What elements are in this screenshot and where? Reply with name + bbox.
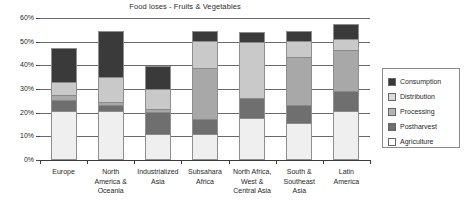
bar-latin-america[interactable] — [333, 24, 359, 160]
x-axis-tick — [276, 160, 277, 164]
bar-north-america-oceania[interactable] — [98, 31, 124, 160]
bar-segment-distribution[interactable] — [99, 77, 123, 102]
bar-segment-consumption[interactable] — [146, 67, 170, 88]
legend-swatch-consumption-icon — [388, 78, 396, 86]
bar-europe[interactable] — [51, 48, 77, 160]
legend-item-postharvest[interactable]: Postharvest — [388, 119, 459, 134]
x-axis-tick — [134, 160, 135, 164]
bar-segment-postharvest[interactable] — [52, 100, 76, 110]
bar-segment-distribution[interactable] — [240, 42, 264, 97]
x-axis-tick — [181, 160, 182, 164]
legend-label: Processing — [400, 108, 435, 115]
y-axis-tick-label: 10% — [2, 132, 34, 139]
legend-label: Distribution — [400, 93, 435, 100]
legend-swatch-agriculture-icon — [388, 138, 396, 146]
legend-item-processing[interactable]: Processing — [388, 104, 459, 119]
bar-segment-distribution[interactable] — [334, 39, 358, 49]
bar-segment-processing[interactable] — [193, 68, 217, 119]
bar-segment-consumption[interactable] — [334, 25, 358, 39]
bar-segment-agriculture[interactable] — [99, 111, 123, 159]
x-axis-tick — [323, 160, 324, 164]
bar-segment-postharvest[interactable] — [334, 91, 358, 111]
bar-segment-consumption[interactable] — [193, 32, 217, 41]
bar-segment-distribution[interactable] — [146, 89, 170, 109]
y-axis-tick-label: 50% — [2, 38, 34, 45]
bar-segment-consumption[interactable] — [240, 33, 264, 42]
bar-segment-distribution[interactable] — [193, 41, 217, 68]
bar-segment-agriculture[interactable] — [240, 118, 264, 159]
y-axis-tick-label: 30% — [2, 85, 34, 92]
legend-swatch-processing-icon — [388, 108, 396, 116]
x-axis-line — [40, 160, 370, 161]
legend-swatch-postharvest-icon — [388, 123, 396, 131]
bar-segment-postharvest[interactable] — [193, 119, 217, 134]
bar-segment-distribution[interactable] — [287, 41, 311, 56]
bar-south-southeast-asia[interactable] — [286, 31, 312, 160]
legend-label: Consumption — [400, 78, 441, 85]
bar-segment-distribution[interactable] — [52, 82, 76, 95]
legend-item-agriculture[interactable]: Agriculture — [388, 134, 459, 149]
bar-subsahara-africa[interactable] — [192, 31, 218, 160]
x-axis-tick — [229, 160, 230, 164]
y-axis-tick-label: 60% — [2, 14, 34, 21]
chart-title: Food loses - Fruits & Vegetables — [0, 2, 370, 11]
y-axis-tick-label: 0% — [2, 156, 34, 163]
chart-legend: ConsumptionDistributionProcessingPosthar… — [382, 68, 460, 148]
x-axis-category-label-line: Latin — [318, 167, 374, 177]
legend-item-distribution[interactable]: Distribution — [388, 89, 459, 104]
bar-segment-postharvest[interactable] — [146, 112, 170, 134]
x-axis-tick — [87, 160, 88, 164]
bar-segment-agriculture[interactable] — [287, 123, 311, 160]
chart-container: Food loses - Fruits & Vegetables 0%10%20… — [0, 0, 464, 214]
bar-segment-consumption[interactable] — [99, 32, 123, 77]
plot-area — [40, 18, 370, 160]
x-axis-category-label-line: Asia — [271, 186, 327, 196]
x-axis-tick — [40, 160, 41, 164]
x-axis-tick — [370, 160, 371, 164]
bar-segment-postharvest[interactable] — [287, 105, 311, 123]
legend-item-consumption[interactable]: Consumption — [388, 74, 459, 89]
legend-label: Postharvest — [400, 123, 437, 130]
bar-segment-agriculture[interactable] — [146, 134, 170, 159]
bar-segment-agriculture[interactable] — [52, 111, 76, 159]
bar-segment-consumption[interactable] — [52, 49, 76, 82]
bar-industrialized-asia[interactable] — [145, 66, 171, 160]
bar-north-africa-west-central-asia[interactable] — [239, 32, 265, 160]
bar-segment-agriculture[interactable] — [193, 134, 217, 159]
legend-label: Agriculture — [400, 138, 433, 145]
y-axis-tick-label: 40% — [2, 61, 34, 68]
bar-segment-processing[interactable] — [287, 57, 311, 105]
bar-segment-agriculture[interactable] — [334, 111, 358, 159]
bar-segment-consumption[interactable] — [287, 32, 311, 41]
x-axis-category-label-line: Oceania — [83, 186, 139, 196]
y-axis-tick-label: 20% — [2, 109, 34, 116]
x-axis-category-label: LatinAmerica — [318, 167, 374, 186]
bar-segment-postharvest[interactable] — [240, 98, 264, 118]
legend-swatch-distribution-icon — [388, 93, 396, 101]
bar-segment-processing[interactable] — [334, 50, 358, 91]
x-axis-category-label-line: America — [318, 177, 374, 187]
